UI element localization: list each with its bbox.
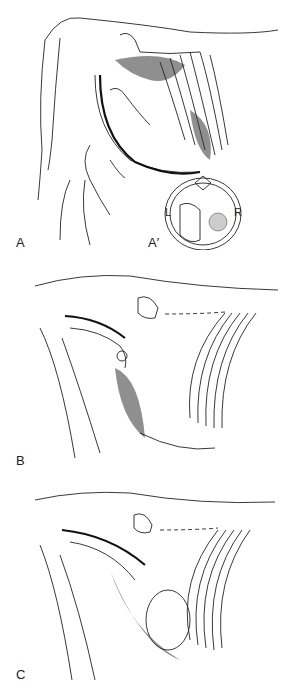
panel-c-drawing: [0, 490, 292, 688]
panel-label-b: B: [16, 454, 25, 467]
panel-a: A A′ L R: [0, 0, 292, 250]
panel-a-drawing: [0, 0, 292, 250]
side-label-right: R: [234, 207, 242, 218]
panel-b: B: [0, 268, 292, 468]
panel-label-a: A: [16, 236, 25, 249]
panel-label-c: C: [16, 668, 25, 681]
panel-b-drawing: [0, 268, 292, 468]
panel-c: C: [0, 490, 292, 688]
side-label-left: L: [165, 207, 171, 218]
panel-label-a-prime: A′: [148, 236, 159, 249]
